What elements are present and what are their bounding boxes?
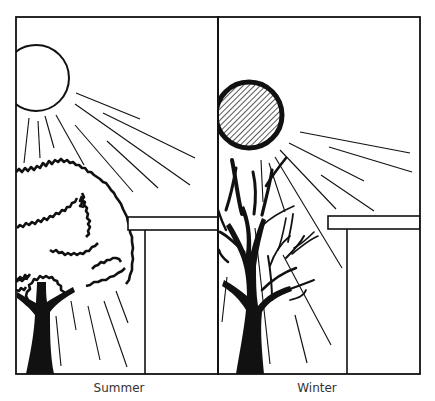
summer-caption: Summer	[94, 381, 145, 395]
winter-panel	[216, 82, 420, 374]
winter-sun-icon	[216, 82, 282, 148]
summer-roof-overhang	[128, 217, 220, 230]
seasonal-shading-diagram	[0, 0, 435, 401]
winter-roof-overhang	[328, 216, 420, 229]
summer-panel	[3, 45, 220, 374]
summer-tree-canopy	[16, 159, 133, 300]
summer-sun-icon	[3, 45, 69, 111]
winter-caption: Winter	[297, 381, 337, 395]
